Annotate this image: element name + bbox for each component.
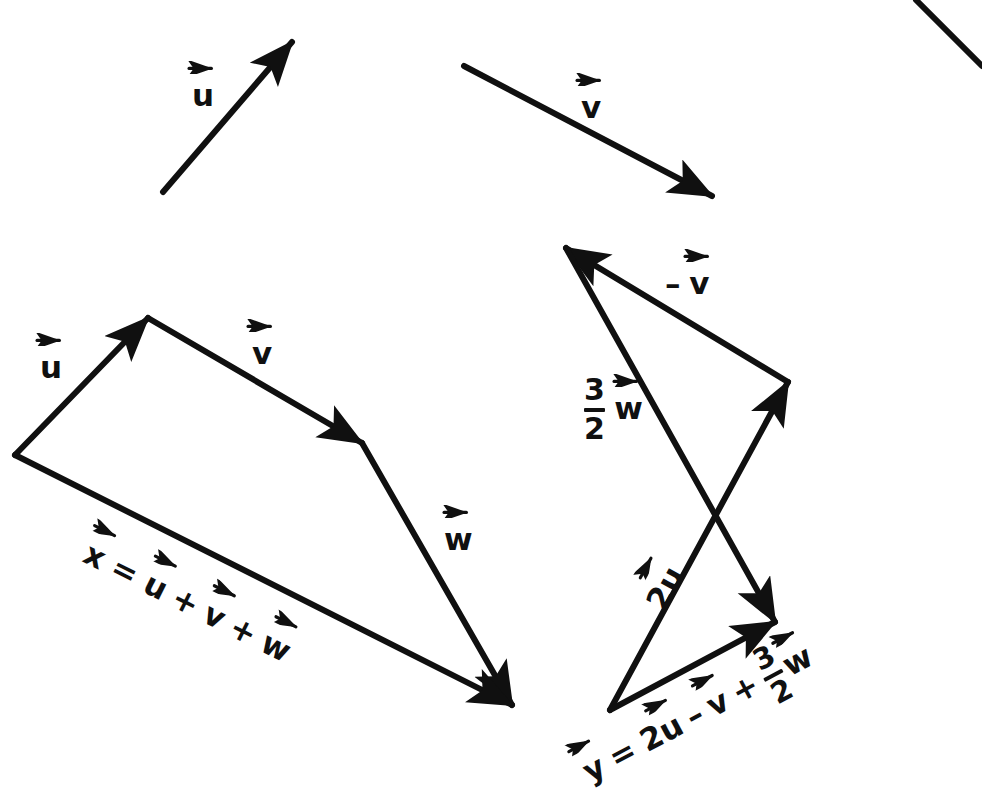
- vec-v: v: [581, 92, 601, 123]
- page-corner-line-artifact: [916, 0, 982, 66]
- vec-u: u: [192, 80, 214, 111]
- vector-arrow-overbar-icon: [612, 374, 645, 387]
- vector-v-free: [464, 66, 712, 196]
- vec-u: u: [40, 352, 62, 383]
- vec-v: v: [689, 268, 709, 299]
- fraction-denominator: 2: [584, 414, 605, 444]
- label-sum-leg-w: w: [444, 524, 473, 555]
- sum-leg-u: [15, 318, 148, 455]
- fraction-three-halves: 3 2: [584, 375, 605, 444]
- vec-v-letter: v: [252, 338, 272, 369]
- vec-u-letter: u: [192, 80, 214, 111]
- label-vector-v-free: v: [581, 92, 601, 123]
- vec-w-letter: w: [444, 524, 473, 555]
- vector-u-free: [163, 42, 292, 192]
- vec-w: w: [444, 524, 473, 555]
- vec-v-letter: v: [581, 92, 601, 123]
- minus-sign: –: [662, 268, 689, 299]
- vec-v: v: [252, 338, 272, 369]
- fraction-numerator: 3: [584, 375, 605, 405]
- label-sum-leg-u: u: [40, 352, 62, 383]
- vec-v-letter: v: [689, 268, 709, 299]
- label-combo-leg-three-halves-w: 3 2 w: [584, 376, 643, 445]
- vec-w: w: [614, 393, 643, 424]
- vec-u-letter: u: [40, 352, 62, 383]
- vec-w-letter: w: [614, 393, 643, 424]
- label-sum-leg-v: v: [252, 338, 272, 369]
- label-combo-leg-neg-v: – v: [662, 268, 709, 299]
- label-vector-u-free: u: [192, 80, 214, 111]
